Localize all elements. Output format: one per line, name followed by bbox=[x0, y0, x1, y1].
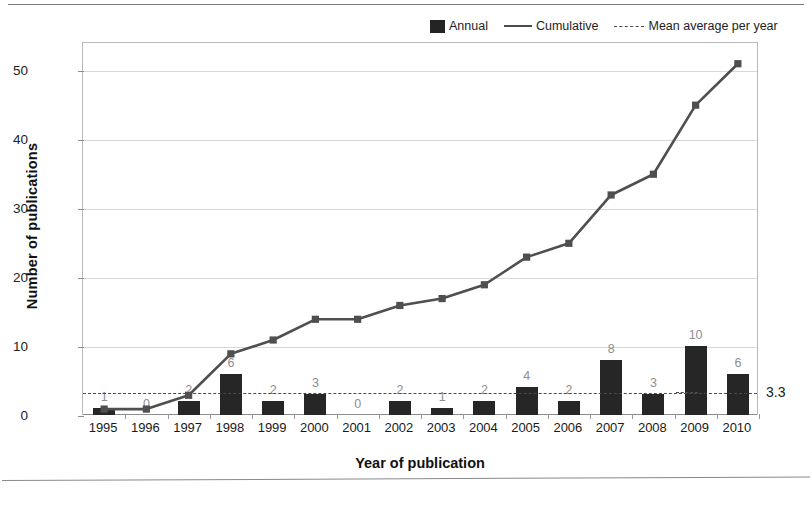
y-axis-tick-label: 10 bbox=[0, 338, 28, 353]
x-axis-tick-label: 2010 bbox=[710, 420, 764, 435]
legend-label-cumulative: Cumulative bbox=[536, 19, 599, 33]
publications-chart-figure: Annual Cumulative Mean average per year … bbox=[0, 0, 812, 508]
cumulative-marker bbox=[565, 240, 572, 247]
cumulative-marker bbox=[101, 405, 108, 412]
cumulative-marker bbox=[650, 171, 657, 178]
legend-item-mean: Mean average per year bbox=[614, 19, 777, 33]
cumulative-polyline bbox=[104, 64, 738, 409]
cumulative-marker bbox=[185, 392, 192, 399]
legend-item-annual: Annual bbox=[430, 19, 488, 33]
cumulative-marker bbox=[692, 102, 699, 109]
cumulative-marker bbox=[354, 316, 361, 323]
x-axis-tick bbox=[759, 414, 760, 419]
cumulative-marker bbox=[734, 60, 741, 67]
legend-label-annual: Annual bbox=[449, 19, 488, 33]
y-axis-tick-label: 20 bbox=[0, 269, 28, 284]
x-axis-title: Year of publication bbox=[82, 455, 758, 471]
cumulative-marker bbox=[396, 302, 403, 309]
cumulative-marker bbox=[227, 350, 234, 357]
chart-legend: Annual Cumulative Mean average per year bbox=[430, 16, 778, 36]
cumulative-marker bbox=[523, 254, 530, 261]
legend-swatch-icon bbox=[430, 20, 445, 33]
mean-value-label: 3.3 bbox=[766, 384, 785, 400]
cumulative-marker bbox=[143, 405, 150, 412]
y-axis-tick-label: 30 bbox=[0, 200, 28, 215]
legend-line-icon bbox=[504, 25, 532, 27]
cumulative-marker bbox=[270, 336, 277, 343]
plot-inner: 10262302124283106 bbox=[83, 43, 757, 415]
y-axis-tick-label: 0 bbox=[0, 408, 28, 423]
cumulative-marker bbox=[439, 295, 446, 302]
mean-reference-line-extension bbox=[676, 392, 698, 393]
legend-label-mean: Mean average per year bbox=[648, 19, 777, 33]
cumulative-marker bbox=[608, 191, 615, 198]
legend-item-cumulative: Cumulative bbox=[504, 19, 599, 33]
plot-area: 10262302124283106 bbox=[82, 42, 758, 415]
cumulative-marker bbox=[312, 316, 319, 323]
cumulative-line-series bbox=[83, 43, 759, 416]
cumulative-marker bbox=[481, 281, 488, 288]
y-axis-title: Number of publications bbox=[24, 76, 40, 376]
legend-dashed-line-icon bbox=[614, 26, 644, 27]
y-axis-tick-label: 50 bbox=[0, 62, 28, 77]
y-axis-tick-label: 40 bbox=[0, 131, 28, 146]
y-axis-tick bbox=[78, 416, 84, 417]
